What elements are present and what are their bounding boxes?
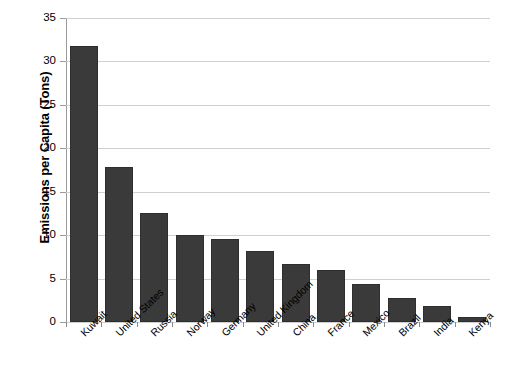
x-axis-tick-label: Norway bbox=[184, 305, 217, 338]
x-axis-tick-label: Russia bbox=[148, 308, 179, 339]
x-axis-tick-mark bbox=[313, 322, 314, 327]
x-axis-tick-mark bbox=[66, 322, 67, 327]
x-axis-tick-label: Kenya bbox=[466, 309, 495, 338]
x-axis-tick-labels: KuwaitUnited StatesRussiaNorwayGermanyUn… bbox=[0, 0, 519, 391]
x-axis-tick-mark bbox=[243, 322, 244, 327]
x-axis-tick-label: Germany bbox=[219, 300, 258, 339]
x-axis-tick-mark bbox=[137, 322, 138, 327]
bar-chart: Emissions per Capita (Tons) 051015202530… bbox=[0, 0, 519, 391]
x-axis-tick-label: Kuwait bbox=[78, 308, 109, 339]
x-axis-tick-mark bbox=[384, 322, 385, 327]
x-axis-tick-mark bbox=[278, 322, 279, 327]
x-axis-tick-label: Mexico bbox=[360, 307, 392, 339]
x-axis-tick-label: France bbox=[325, 307, 356, 338]
x-axis-tick-mark bbox=[349, 322, 350, 327]
y-axis-tick-mark bbox=[60, 192, 66, 193]
y-axis-tick-mark bbox=[60, 105, 66, 106]
x-axis-tick-mark bbox=[207, 322, 208, 327]
x-axis-tick-mark bbox=[172, 322, 173, 327]
y-axis-tick-mark bbox=[60, 235, 66, 236]
x-axis-tick-mark bbox=[419, 322, 420, 327]
y-axis-tick-mark bbox=[60, 18, 66, 19]
x-axis-tick-mark bbox=[101, 322, 102, 327]
y-axis-tick-mark bbox=[60, 148, 66, 149]
x-axis-tick-mark bbox=[490, 322, 491, 327]
x-axis-tick-mark bbox=[455, 322, 456, 327]
x-axis-tick-label: India bbox=[431, 314, 455, 338]
y-axis-tick-mark bbox=[60, 61, 66, 62]
y-axis-tick-mark bbox=[60, 279, 66, 280]
